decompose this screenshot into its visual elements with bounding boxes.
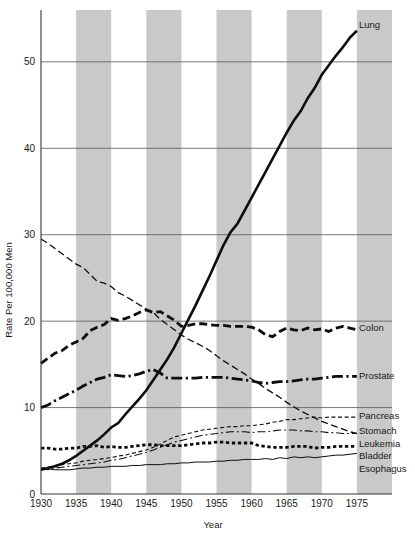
x-tick-label: 1970 (311, 498, 334, 509)
shaded-bands-group (76, 10, 392, 494)
series-label-prostate: Prostate (359, 370, 394, 381)
y-tick-label: 30 (24, 229, 36, 240)
y-tick-label: 40 (24, 143, 36, 154)
x-tick-label: 1975 (346, 498, 369, 509)
x-tick-labels-group: 1930193519401945195019551960196519701975 (30, 498, 369, 509)
series-label-lung: Lung (359, 19, 380, 30)
y-tick-label: 20 (24, 316, 36, 327)
x-tick-label: 1945 (135, 498, 158, 509)
series-label-esophagus: Esophagus (359, 463, 407, 474)
x-tick-label: 1965 (276, 498, 299, 509)
series-label-bladder: Bladder (359, 450, 392, 461)
x-tick-label: 1940 (100, 498, 123, 509)
series-label-colon: Colon (359, 322, 384, 333)
x-tick-label: 1955 (205, 498, 228, 509)
y-tick-label: 50 (24, 56, 36, 67)
x-tick-label: 1950 (170, 498, 193, 509)
shaded-band (146, 10, 181, 494)
shaded-band (357, 10, 392, 494)
x-tick-label: 1935 (65, 498, 88, 509)
x-tick-label: 1960 (240, 498, 263, 509)
shaded-band (76, 10, 111, 494)
x-axis-title: Year (203, 519, 222, 530)
x-tick-label: 1930 (30, 498, 53, 509)
y-tick-label: 0 (29, 489, 35, 500)
series-label-leukemia: Leukemia (359, 438, 401, 449)
series-label-stomach: Stomach (359, 425, 397, 436)
series-label-pancreas: Pancreas (359, 410, 399, 421)
cancer-mortality-line-chart: 1930193519401945195019551960196519701975… (0, 0, 415, 536)
y-axis-title: Rate Per 100,000 Men (3, 242, 14, 338)
chart-figure: 1930193519401945195019551960196519701975… (0, 0, 415, 536)
y-tick-labels-group: 01020304050 (24, 56, 36, 499)
y-tick-label: 10 (24, 402, 36, 413)
